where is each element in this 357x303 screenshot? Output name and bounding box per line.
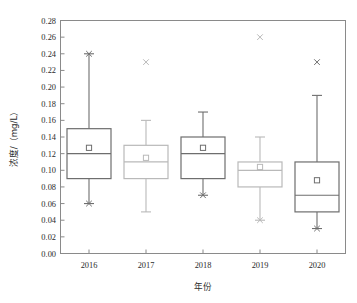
y-axis-tick-label: 0.10 — [41, 166, 56, 175]
y-axis-tick-label: 0.18 — [41, 100, 56, 109]
box-iqr — [295, 162, 339, 212]
y-axis-tick-label: 0.26 — [41, 33, 56, 42]
y-axis-tick-label: 0.00 — [41, 250, 56, 259]
box-group-2018 — [181, 112, 225, 198]
mean-marker — [257, 164, 262, 169]
x-axis-tick-label: 2016 — [81, 261, 98, 270]
x-axis-tick-label: 2017 — [138, 261, 155, 270]
mean-marker — [200, 145, 205, 150]
x-axis-tick-label: 2018 — [195, 261, 212, 270]
x-axis-tick-label: 2019 — [252, 261, 269, 270]
y-axis-tick-label: 0.16 — [41, 116, 56, 125]
boxplot-svg: 0.000.020.040.060.080.100.120.140.160.18… — [0, 0, 357, 303]
y-axis-tick-label: 0.14 — [41, 133, 56, 142]
outlier-marker — [143, 59, 149, 65]
y-axis-tick-label: 0.20 — [41, 83, 56, 92]
box-group-2019 — [238, 34, 282, 223]
box-iqr — [181, 137, 225, 179]
x-axis-title: 年份 — [194, 281, 212, 292]
mean-marker — [86, 145, 91, 150]
x-axis-tick-label: 2020 — [309, 261, 326, 270]
box-group-2020 — [295, 59, 339, 231]
y-axis-tick-label: 0.12 — [41, 150, 56, 159]
y-axis-tick-label: 0.28 — [41, 17, 56, 26]
boxplot-figure: 0.000.020.040.060.080.100.120.140.160.18… — [0, 0, 357, 303]
box-group-2017 — [124, 59, 168, 212]
box-group-2016 — [67, 51, 111, 206]
outlier-marker — [257, 34, 263, 40]
y-axis-title: 浓度/（mg/L） — [8, 107, 19, 167]
y-axis-tick-label: 0.08 — [41, 183, 56, 192]
mean-marker — [314, 178, 319, 183]
mean-marker — [143, 155, 148, 160]
y-axis-tick-label: 0.04 — [41, 216, 56, 225]
y-axis-tick-label: 0.02 — [41, 233, 56, 242]
y-axis-tick-label: 0.22 — [41, 66, 56, 75]
y-axis-tick-label: 0.24 — [41, 50, 56, 59]
y-axis-tick-label: 0.06 — [41, 200, 56, 209]
outlier-marker — [314, 59, 320, 65]
